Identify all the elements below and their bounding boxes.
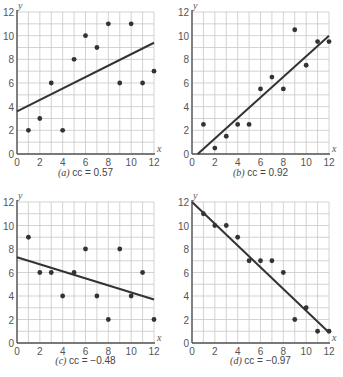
data-point (72, 57, 77, 62)
y-tick-label: 12 (3, 7, 15, 18)
data-point (95, 45, 100, 50)
data-point (37, 116, 42, 121)
y-tick-label: 10 (3, 31, 15, 42)
data-point (292, 27, 297, 32)
data-point (304, 305, 309, 310)
x-tick-label: 10 (301, 157, 313, 168)
chart-svg: 024681012024681012xy(b) cc = 0.92 (172, 0, 343, 190)
data-points (26, 235, 156, 322)
tick-labels: 024681012024681012 (178, 7, 335, 168)
panel-caption: (d) cc = −0.97 (230, 355, 291, 367)
y-tick-label: 6 (183, 268, 189, 279)
data-point (327, 39, 332, 44)
data-point (37, 270, 42, 275)
x-tick-label: 12 (323, 157, 335, 168)
x-tick-label: 2 (37, 346, 43, 357)
data-point (129, 294, 134, 299)
data-point (140, 81, 145, 86)
data-point (258, 87, 263, 92)
data-point (304, 63, 309, 68)
y-axis-label: y (192, 190, 198, 201)
scatter-panel-c: 024681012024681012xy(c) cc = −0.48 (0, 190, 172, 377)
panel-caption: (c) cc = −0.48 (55, 355, 116, 367)
y-axis-label: y (17, 0, 23, 11)
x-tick-label: 10 (126, 346, 138, 357)
data-point (117, 247, 122, 252)
data-point (270, 258, 275, 263)
data-point (224, 223, 229, 228)
data-point (140, 270, 145, 275)
y-tick-label: 12 (178, 197, 190, 208)
data-point (258, 258, 263, 263)
data-point (49, 81, 54, 86)
x-tick-label: 0 (189, 346, 195, 357)
data-point (106, 317, 111, 322)
x-axis-label: x (156, 332, 162, 343)
x-tick-label: 0 (14, 346, 20, 357)
y-tick-label: 8 (183, 244, 189, 255)
x-tick-label: 2 (37, 157, 43, 168)
y-tick-label: 4 (183, 291, 189, 302)
y-tick-label: 10 (178, 31, 190, 42)
data-point (212, 146, 217, 151)
data-point (292, 317, 297, 322)
data-point (72, 270, 77, 275)
data-point (212, 223, 217, 228)
y-tick-label: 2 (183, 125, 189, 136)
y-axis-label: y (17, 190, 23, 201)
x-axis-label: x (156, 143, 162, 154)
data-point (26, 128, 31, 133)
y-tick-label: 10 (178, 221, 190, 232)
y-tick-label: 4 (8, 291, 14, 302)
y-tick-label: 8 (8, 54, 14, 65)
panel-caption: (a) cc = 0.57 (58, 167, 113, 179)
chart-svg: 024681012024681012xy(d) cc = −0.97 (172, 190, 343, 377)
data-point (106, 21, 111, 26)
y-tick-label: 0 (183, 338, 189, 349)
x-tick-label: 12 (148, 346, 160, 357)
data-point (117, 81, 122, 86)
y-tick-label: 4 (183, 102, 189, 113)
y-tick-label: 2 (8, 315, 14, 326)
data-point (129, 21, 134, 26)
tick-labels: 024681012024681012 (178, 197, 335, 357)
y-tick-label: 2 (8, 125, 14, 136)
y-tick-label: 6 (8, 268, 14, 279)
chart-svg: 024681012024681012xy(a) cc = 0.57 (0, 0, 172, 190)
data-point (201, 122, 206, 127)
axes (17, 10, 155, 154)
data-point (95, 294, 100, 299)
x-tick-label: 2 (212, 346, 218, 357)
x-tick-label: 10 (301, 346, 313, 357)
data-points (26, 21, 156, 132)
x-tick-label: 12 (148, 157, 160, 168)
y-tick-label: 6 (8, 78, 14, 89)
grid (192, 202, 329, 343)
data-point (49, 270, 54, 275)
data-point (281, 270, 286, 275)
y-tick-label: 12 (3, 197, 15, 208)
x-tick-label: 0 (14, 157, 20, 168)
tick-labels: 024681012024681012 (3, 7, 160, 168)
data-point (281, 87, 286, 92)
chart-svg: 024681012024681012xy(c) cc = −0.48 (0, 190, 172, 377)
data-point (315, 39, 320, 44)
x-axis-label: x (331, 332, 337, 343)
data-point (235, 122, 240, 127)
y-tick-label: 0 (8, 149, 14, 160)
data-point (270, 75, 275, 80)
y-tick-label: 12 (178, 7, 190, 18)
data-point (327, 329, 332, 334)
scatter-panel-d: 024681012024681012xy(d) cc = −0.97 (172, 190, 343, 377)
data-point (83, 247, 88, 252)
scatter-panel-a: 024681012024681012xy(a) cc = 0.57 (0, 0, 172, 190)
x-axis-label: x (331, 143, 337, 154)
x-tick-label: 0 (189, 157, 195, 168)
data-point (152, 69, 157, 74)
axes (192, 10, 330, 154)
y-tick-label: 0 (8, 338, 14, 349)
y-tick-label: 8 (8, 244, 14, 255)
y-tick-label: 6 (183, 78, 189, 89)
data-point (224, 134, 229, 139)
data-point (83, 33, 88, 38)
